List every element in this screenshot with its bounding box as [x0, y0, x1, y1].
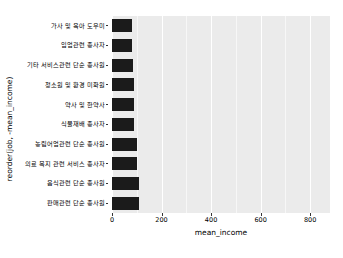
y-axis-tick-mark	[106, 183, 109, 184]
x-axis-tick-label: 400	[205, 216, 217, 224]
bar	[112, 177, 139, 190]
bar-row	[112, 95, 330, 115]
bar-row	[112, 174, 330, 194]
y-axis-tick: 식물재배 종사자	[16, 115, 108, 135]
x-axis-title: mean_income	[112, 228, 330, 237]
y-axis-tick: 청소원 및 환경 미화원	[16, 75, 108, 95]
y-axis-tick-label: 농림어업관련 단순 종사원	[35, 141, 105, 147]
bar-row	[112, 55, 330, 75]
y-axis-tick-mark	[106, 124, 109, 125]
bar	[112, 197, 139, 210]
y-axis-tick: 약사 및 한약사	[16, 95, 108, 115]
bar-row	[112, 16, 330, 36]
y-axis-tick-mark	[106, 144, 109, 145]
y-axis-tick: 의료 복지 관련 서비스 종사자	[16, 154, 108, 174]
bar-row	[112, 154, 330, 174]
y-axis-tick-label: 의료 복지 관련 서비스 종사자	[25, 161, 105, 167]
bar-row	[112, 193, 330, 213]
bar-row	[112, 115, 330, 135]
y-axis-tick-label: 음식관련 단순 종사원	[47, 180, 105, 186]
y-axis-tick-labels: 가사 및 육아 도우미임업관련 종사자기타 서비스관련 단순 종사원청소원 및 …	[16, 16, 108, 213]
x-axis-ticks: 0200400600800	[112, 213, 330, 227]
y-axis-tick-label: 청소원 및 환경 미화원	[45, 82, 105, 88]
chart-figure: reorder(job, -mean_income) 가사 및 육아 도우미임업…	[0, 0, 343, 258]
bar	[112, 39, 132, 52]
y-axis-tick-label: 판매관련 단순 종사원	[47, 200, 105, 206]
y-axis-tick-mark	[106, 65, 109, 66]
bar	[112, 98, 134, 111]
plot-panel	[112, 16, 330, 213]
y-axis-tick: 농림어업관련 단순 종사원	[16, 134, 108, 154]
y-axis-tick: 기타 서비스관련 단순 종사원	[16, 55, 108, 75]
x-axis-tick-label: 0	[110, 216, 114, 224]
y-axis-tick-mark	[106, 104, 109, 105]
bar	[112, 59, 133, 72]
y-axis-tick-mark	[106, 163, 109, 164]
x-axis-tick-label: 200	[155, 216, 167, 224]
x-axis-tick-label: 600	[254, 216, 266, 224]
y-axis-tick: 음식관련 단순 종사원	[16, 174, 108, 194]
bar	[112, 157, 137, 170]
y-axis-tick: 가사 및 육아 도우미	[16, 16, 108, 36]
bar-row	[112, 36, 330, 56]
y-axis-tick-label: 식물재배 종사자	[61, 121, 105, 127]
bar-row	[112, 75, 330, 95]
y-axis-tick: 판매관련 단순 종사원	[16, 193, 108, 213]
bar	[112, 19, 132, 32]
bar-series	[112, 16, 330, 213]
y-axis-tick-label: 임업관련 종사자	[61, 42, 105, 48]
y-axis-tick: 임업관련 종사자	[16, 36, 108, 56]
y-axis-tick-label: 기타 서비스관련 단순 종사원	[27, 62, 105, 68]
y-axis-tick-mark	[106, 84, 109, 85]
bar	[112, 118, 134, 131]
y-axis-tick-label: 가사 및 육아 도우미	[51, 23, 105, 29]
y-axis-tick-mark	[106, 45, 109, 46]
y-axis-tick-mark	[106, 25, 109, 26]
x-axis-tick-label: 800	[304, 216, 316, 224]
bar-row	[112, 134, 330, 154]
bar	[112, 138, 137, 151]
bar	[112, 78, 134, 91]
y-axis-tick-mark	[106, 203, 109, 204]
y-axis-tick-label: 약사 및 한약사	[65, 102, 105, 108]
